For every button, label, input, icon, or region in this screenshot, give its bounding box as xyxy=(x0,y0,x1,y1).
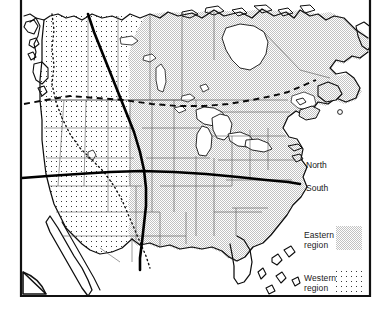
page-fold-triangle-icon xyxy=(23,272,46,294)
western-region-shading xyxy=(40,14,144,254)
bahamas-islands xyxy=(258,246,300,294)
legend-label-western: Western region xyxy=(304,273,336,293)
legend-swatch-western xyxy=(336,270,362,294)
legend-label-eastern: Eastern region xyxy=(304,230,334,250)
map-figure: North South Eastern region Western regio… xyxy=(0,0,387,317)
label-north: North xyxy=(306,160,327,170)
label-south: South xyxy=(306,183,328,193)
legend-swatch-eastern xyxy=(336,226,362,250)
north-america-map xyxy=(0,0,387,317)
map-body xyxy=(22,5,374,296)
